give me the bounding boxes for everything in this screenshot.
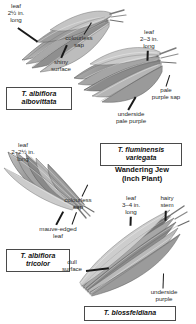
label-tricolor-leaf-size: leaf 2–2½ in. long (3, 141, 43, 163)
namebox-tricolor-line2: tricolor (26, 260, 50, 267)
namebox-fluminensis-line1: T. fluminensis (118, 146, 165, 153)
namebox-tricolor-line1: T. albiflora (21, 252, 56, 259)
botanical-plate: leaf 2½ in. long colourless sap shiny su… (0, 0, 196, 324)
leader-fluminensis-leaf-size (147, 51, 149, 61)
label-albovittata-leaf-size: leaf 2½ in. long (1, 2, 31, 24)
namebox-blossfeldiana: T. blossfeldiana (84, 306, 176, 321)
label-blossfeldiana-stem: hairy stem (152, 194, 182, 208)
label-blossfeldiana-underside: underside purple (142, 288, 186, 302)
namebox-fluminensis-line2: variegata (126, 154, 157, 161)
label-fluminensis-sap: pale purple sap (144, 86, 188, 100)
namebox-albovittata-line1: T. albiflora (22, 90, 57, 97)
namebox-albovittata-line2: albovittata (21, 98, 56, 105)
label-blossfeldiana-leaf-size: leaf 3–4 in. long (113, 194, 149, 216)
namebox-blossfeldiana-line1: T. blossfeldiana (104, 309, 156, 316)
leader-blossfeldiana-stem (165, 211, 167, 221)
label-fluminensis-underside: underside pale purple (106, 110, 156, 124)
namebox-fluminensis-variegata: T. fluminensisvariegata (100, 143, 182, 166)
caption-line2: (Inch Plant) (122, 174, 162, 183)
label-blossfeldiana-surface: dull surface (57, 258, 87, 272)
label-fluminensis-leaf-size: leaf 2–3 in. long (131, 28, 167, 50)
leader-blossfeldiana-leaf-size (130, 217, 132, 226)
namebox-albovittata: T. albifloraalbovittata (6, 87, 72, 110)
